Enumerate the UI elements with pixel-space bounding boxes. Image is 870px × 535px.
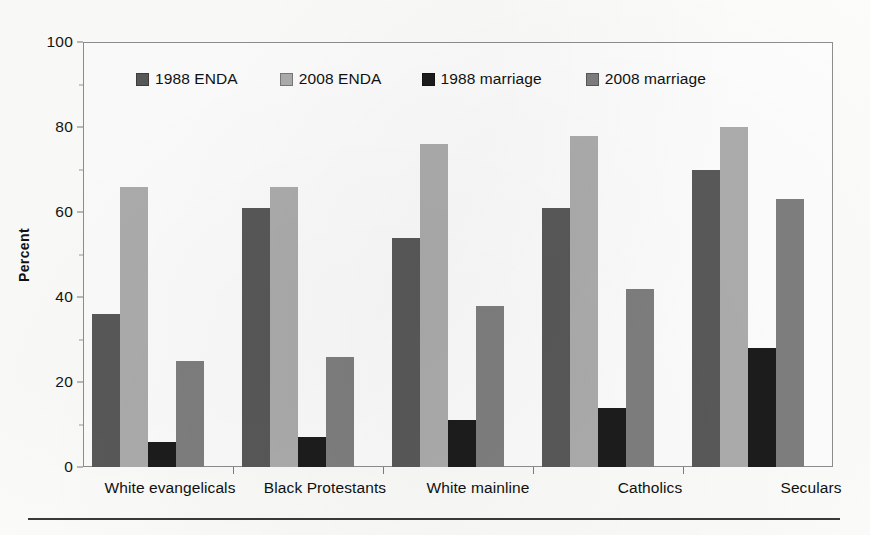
legend-swatch-icon <box>136 73 149 86</box>
x-axis-tick <box>233 467 234 474</box>
bar <box>326 357 354 468</box>
x-axis-tick <box>683 467 684 474</box>
x-axis-category-label: White mainline <box>426 479 529 497</box>
legend-item-label: 2008 marriage <box>605 70 706 88</box>
legend-swatch-icon <box>280 73 293 86</box>
legend-item-label: 1988 marriage <box>441 70 542 88</box>
y-axis-tick-label: 40 <box>55 288 73 306</box>
bar-group <box>692 42 804 467</box>
y-axis-tick-label: 0 <box>64 458 73 476</box>
bar-group <box>392 42 504 467</box>
bottom-rule <box>28 518 840 520</box>
legend-swatch-icon <box>586 73 599 86</box>
bar <box>120 187 148 468</box>
bar <box>92 314 120 467</box>
x-axis-tick <box>533 467 534 474</box>
bar <box>448 420 476 467</box>
legend-item[interactable]: 2008 marriage <box>586 70 706 88</box>
bar <box>570 136 598 468</box>
legend-item-label: 2008 ENDA <box>299 70 382 88</box>
y-axis: 020406080100 <box>0 42 83 467</box>
x-axis: White evangelicalsBlack ProtestantsWhite… <box>83 467 833 519</box>
bars-layer <box>83 42 833 467</box>
bar <box>598 408 626 468</box>
chart-legend: 1988 ENDA2008 ENDA1988 marriage2008 marr… <box>136 70 706 88</box>
bar <box>392 238 420 468</box>
bar <box>176 361 204 467</box>
bar-group <box>542 42 654 467</box>
figure-container: Percent 020406080100 1988 ENDA2008 ENDA1… <box>0 0 870 535</box>
legend-swatch-icon <box>422 73 435 86</box>
bar <box>692 170 720 468</box>
x-axis-tick <box>383 467 384 474</box>
bar-group <box>242 42 354 467</box>
bar <box>270 187 298 468</box>
bar-group <box>92 42 204 467</box>
legend-item-label: 1988 ENDA <box>155 70 238 88</box>
bar <box>298 437 326 467</box>
bar <box>626 289 654 468</box>
x-axis-category-label: Seculars <box>780 479 841 497</box>
bar <box>720 127 748 467</box>
y-axis-tick-label: 80 <box>55 118 73 136</box>
y-axis-tick-label: 20 <box>55 373 73 391</box>
legend-item[interactable]: 1988 ENDA <box>136 70 238 88</box>
bar <box>148 442 176 468</box>
x-axis-category-label: White evangelicals <box>104 479 235 497</box>
x-axis-category-label: Black Protestants <box>264 479 386 497</box>
x-axis-category-label: Catholics <box>618 479 683 497</box>
bar <box>476 306 504 468</box>
bar <box>776 199 804 467</box>
legend-item[interactable]: 1988 marriage <box>422 70 542 88</box>
bar <box>748 348 776 467</box>
bar <box>420 144 448 467</box>
y-axis-tick-label: 100 <box>47 33 73 51</box>
bar <box>242 208 270 467</box>
legend-item[interactable]: 2008 ENDA <box>280 70 382 88</box>
bar <box>542 208 570 467</box>
y-axis-tick-label: 60 <box>55 203 73 221</box>
